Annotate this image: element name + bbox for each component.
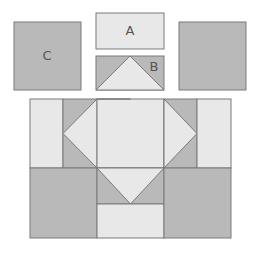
piece-square-right [179, 22, 246, 90]
label-a: A [126, 23, 135, 38]
quilt-diagram: C A B [0, 0, 255, 255]
assembled-block [30, 99, 231, 238]
label-b: B [150, 59, 159, 74]
label-c: C [42, 48, 51, 63]
